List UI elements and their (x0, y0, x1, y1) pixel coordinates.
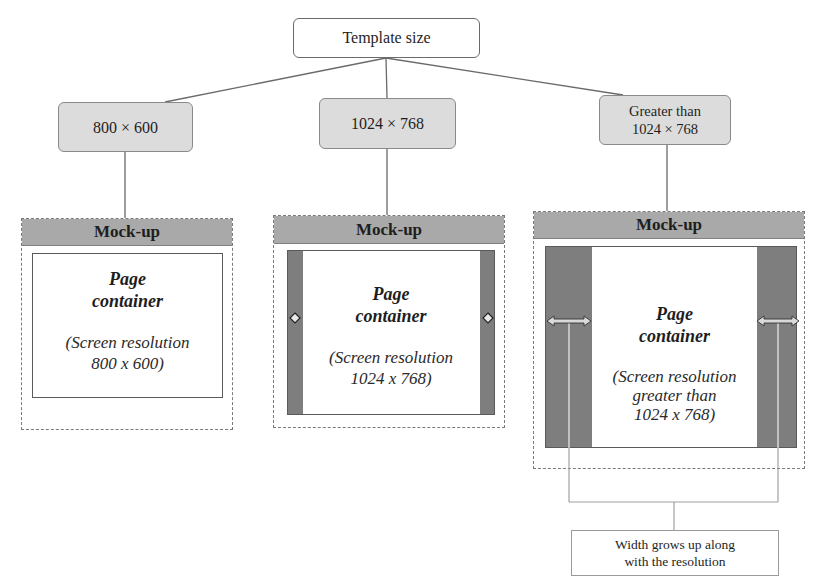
size-label-line: 1024 × 768 (632, 120, 698, 138)
page-container-title: Page container (288, 283, 494, 327)
note-line: with the resolution (624, 553, 725, 570)
title-line: Page (33, 268, 222, 290)
root-node-template-size: Template size (293, 18, 480, 58)
size-label: 800 × 600 (93, 118, 158, 137)
subtitle-line: greater than (586, 386, 763, 405)
subtitle-line: 800 x 600) (33, 353, 222, 374)
mockup-header: Mock-up (22, 219, 232, 246)
root-label: Template size (342, 29, 430, 47)
double-arrow-icon (546, 315, 592, 327)
subtitle-line: (Screen resolution (288, 347, 494, 368)
title-line: container (33, 290, 222, 312)
page-container-subtitle: (Screen resolution 1024 x 768) (288, 347, 494, 389)
title-line: container (288, 305, 494, 327)
note-line: Width grows up along (615, 536, 735, 553)
subtitle-line: (Screen resolution (586, 367, 763, 386)
size-label: 1024 × 768 (351, 114, 424, 133)
size-node-800x600: 800 × 600 (58, 102, 193, 152)
page-container-800x600: Page container (Screen resolution 800 x … (32, 253, 223, 398)
double-arrow-icon (756, 315, 800, 327)
width-grows-note: Width grows up along with the resolution (571, 530, 779, 576)
page-container-1024x768: Page container (Screen resolution 1024 x… (287, 250, 495, 415)
title-line: Page (288, 283, 494, 305)
right-side-bar (480, 251, 494, 414)
size-label-line: Greater than (629, 102, 701, 120)
subtitle-line: 1024 x 768) (288, 368, 494, 389)
page-container-title: Page container (592, 303, 757, 347)
subtitle-line: (Screen resolution (33, 332, 222, 353)
left-side-bar (288, 251, 303, 414)
size-node-1024x768: 1024 × 768 (319, 98, 456, 149)
diamond-handle-icon (482, 312, 494, 324)
title-line: Page (592, 303, 757, 325)
subtitle-line: 1024 x 768) (586, 405, 763, 424)
diamond-handle-icon (289, 312, 301, 324)
title-line: container (592, 325, 757, 347)
size-node-greater-than-1024x768: Greater than 1024 × 768 (599, 95, 731, 145)
page-container-subtitle: (Screen resolution 800 x 600) (33, 332, 222, 374)
mockup-header: Mock-up (274, 216, 504, 244)
page-container-title: Page container (33, 268, 222, 312)
page-container-subtitle: (Screen resolution greater than 1024 x 7… (586, 367, 763, 424)
mockup-header: Mock-up (534, 212, 804, 239)
page-container-greater-than-1024x768: Page container (Screen resolution greate… (545, 246, 797, 448)
